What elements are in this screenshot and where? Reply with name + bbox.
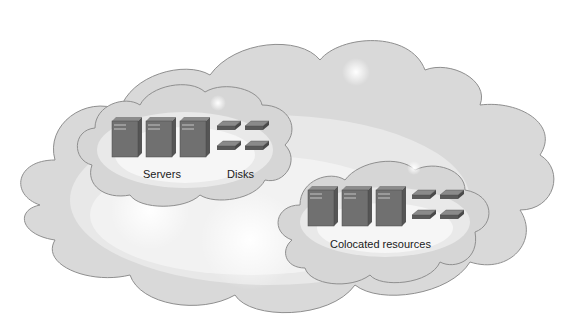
server-icon	[180, 117, 210, 157]
server-icon	[342, 186, 372, 226]
disks-label: Disks	[227, 168, 254, 180]
colocated-resources-label: Colocated resources	[330, 238, 431, 250]
server-icon	[112, 117, 142, 157]
server-icon	[308, 186, 338, 226]
server-icon	[146, 117, 176, 157]
cloud-diagram: Servers Disks Colocated resources	[0, 0, 567, 319]
server-icon	[376, 186, 406, 226]
servers-label: Servers	[143, 168, 181, 180]
